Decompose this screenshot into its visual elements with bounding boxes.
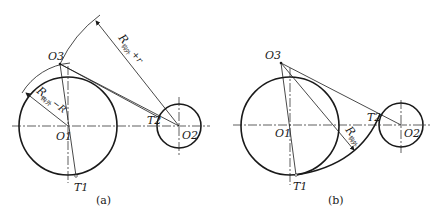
- point-o3: [59, 63, 62, 66]
- point-o3: [280, 62, 283, 65]
- label-o1: O1: [275, 127, 291, 140]
- label-t2: T2: [147, 114, 161, 127]
- dim-line-outer: [96, 21, 179, 126]
- label-t2: T2: [367, 111, 381, 124]
- point-t1: [75, 175, 78, 178]
- caption-a: (a): [96, 194, 111, 207]
- label-t1: T1: [74, 181, 88, 194]
- point-t1: [295, 174, 298, 177]
- tangent-arc-construction-diagram: O3 O1 O2 T1 T2 R 钩外 +r R 钩外 −R (a) O3 O: [0, 0, 438, 213]
- arc-r-plus-r: [60, 15, 100, 64]
- label-o3: O3: [48, 50, 64, 63]
- figure-b: O3 O1 O2 T1 T2 R 钩外 (b): [233, 49, 430, 207]
- label-o2: O2: [182, 129, 198, 142]
- line-o3-t1: [281, 63, 296, 175]
- dim-label-r: R 钩外: [340, 123, 365, 149]
- caption-b: (b): [328, 194, 344, 207]
- label-o2: O2: [404, 127, 420, 140]
- dim-line-r: [281, 63, 354, 150]
- label-t1: T1: [293, 180, 307, 193]
- tangent-line: [60, 64, 160, 118]
- label-o3: O3: [265, 49, 281, 62]
- line-o3-o2: [281, 63, 401, 125]
- figure-a: O3 O1 O2 T1 T2 R 钩外 +r R 钩外 −R (a): [12, 15, 210, 207]
- label-o1: O1: [56, 130, 72, 143]
